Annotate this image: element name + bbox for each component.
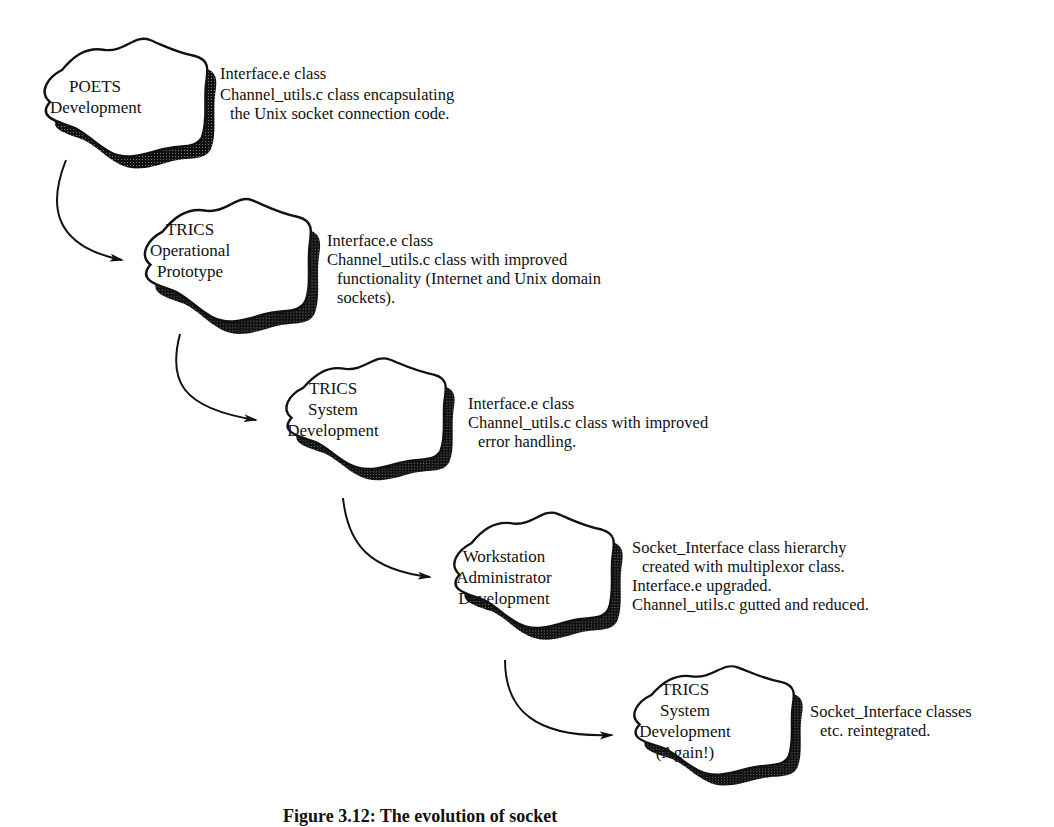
note-line: the Unix socket connection code. — [220, 104, 454, 123]
stage-notes-workstation-admin: Socket_Interface class hierarchy created… — [632, 538, 869, 614]
label-line: System — [283, 399, 383, 420]
stage-label-trics-sys-dev: TRICS System Development — [283, 378, 383, 441]
label-line: Operational — [142, 240, 238, 261]
label-line: System — [630, 700, 740, 721]
arrow-poets-to-trics-op-proto — [57, 160, 122, 260]
label-line: Prototype — [142, 261, 238, 282]
stage-label-trics-op-proto: TRICS Operational Prototype — [142, 219, 238, 282]
note-line: created with multiplexor class. — [632, 557, 869, 576]
figure-caption: Figure 3.12: The evolution of socket — [283, 806, 557, 827]
stage-label-poets: POETS Development — [50, 76, 140, 118]
note-line: Interface.e class — [468, 394, 708, 413]
label-line: Development — [283, 420, 383, 441]
note-line: Interface.e class — [327, 231, 601, 250]
stage-label-trics-sys-dev-again: TRICS System Development (Again!) — [630, 679, 740, 763]
label-line: TRICS — [142, 219, 238, 240]
note-line: sockets). — [327, 288, 601, 307]
note-line: Socket_Interface classes — [810, 702, 972, 721]
note-line: etc. reintegrated. — [810, 721, 972, 740]
note-line: Channel_utils.c class encapsulating — [220, 85, 454, 104]
label-line: Development — [448, 588, 560, 609]
stage-notes-trics-sys-dev: Interface.e class Channel_utils.c class … — [468, 394, 708, 451]
label-line: TRICS — [283, 378, 383, 399]
note-line: Socket_Interface class hierarchy — [632, 538, 869, 557]
arrow-workstation-admin-to-trics-again — [505, 660, 612, 735]
note-line: Interface.e upgraded. — [632, 576, 869, 595]
label-line: POETS — [50, 76, 140, 97]
note-line: error handling. — [468, 432, 708, 451]
note-line: Channel_utils.c class with improved — [327, 250, 601, 269]
label-line: TRICS — [630, 679, 740, 700]
label-line: Administrator — [448, 567, 560, 588]
stage-notes-trics-sys-dev-again: Socket_Interface classes etc. reintegrat… — [810, 702, 972, 740]
note-line: functionality (Internet and Unix domain — [327, 269, 601, 288]
stage-notes-trics-op-proto: Interface.e class Channel_utils.c class … — [327, 231, 601, 307]
note-line: Channel_utils.c gutted and reduced. — [632, 595, 869, 614]
label-line: Workstation — [448, 546, 560, 567]
label-line: Development — [630, 721, 740, 742]
label-line: (Again!) — [630, 742, 740, 763]
stage-notes-poets: Interface.e class Channel_utils.c class … — [220, 64, 454, 123]
note-line: Interface.e class — [220, 64, 454, 83]
label-line: Development — [50, 97, 140, 118]
arrow-trics-sys-dev-to-workstation-admin — [343, 498, 430, 577]
note-line: Channel_utils.c class with improved — [468, 413, 708, 432]
arrow-trics-op-proto-to-trics-sys-dev — [176, 334, 256, 420]
stage-label-workstation-admin: Workstation Administrator Development — [448, 546, 560, 609]
